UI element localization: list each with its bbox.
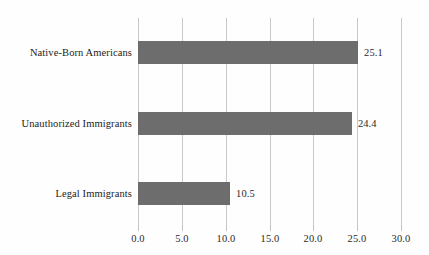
value-label-unauthorized-immigrants: 24.4 [358, 112, 377, 135]
tick-label-20: 20.0 [304, 233, 323, 244]
tick-mark-25 [357, 225, 358, 231]
value-label-native-born-americans: 25.1 [364, 41, 383, 64]
tick-label-5: 5.0 [175, 233, 188, 244]
bar-legal-immigrants [138, 182, 230, 205]
tick-mark-10 [226, 225, 227, 231]
gridline-30 [401, 18, 402, 225]
bar-native-born-americans [138, 41, 358, 64]
tick-mark-30 [401, 225, 402, 231]
plot-area: 25.1 24.4 10.5 [138, 18, 401, 225]
tick-mark-5 [182, 225, 183, 231]
bar-unauthorized-immigrants [138, 112, 352, 135]
category-label-legal-immigrants: Legal Immigrants [0, 182, 132, 205]
tick-label-30: 30.0 [392, 233, 411, 244]
tick-label-25: 25.0 [348, 233, 367, 244]
category-label-unauthorized-immigrants: Unauthorized Immigrants [0, 112, 132, 135]
tick-label-15: 15.0 [261, 233, 280, 244]
tick-mark-0 [138, 225, 139, 231]
tick-mark-15 [270, 225, 271, 231]
tick-label-0: 0.0 [131, 233, 144, 244]
x-axis: 0.0 5.0 10.0 15.0 20.0 25.0 30.0 [138, 225, 401, 255]
category-axis-labels: Native-Born Americans Unauthorized Immig… [0, 18, 132, 225]
value-label-legal-immigrants: 10.5 [236, 182, 255, 205]
category-label-native-born-americans: Native-Born Americans [0, 41, 132, 64]
bar-chart: Native-Born Americans Unauthorized Immig… [0, 0, 429, 255]
tick-mark-20 [313, 225, 314, 231]
tick-label-10: 10.0 [217, 233, 236, 244]
